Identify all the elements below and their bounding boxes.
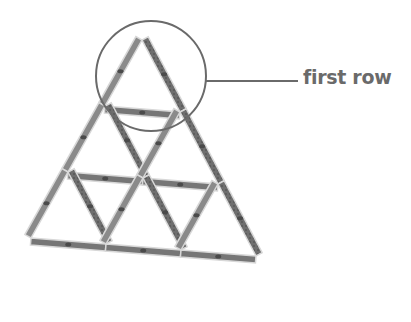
card-center-emblem: [140, 248, 146, 252]
card-center-emblem: [161, 72, 167, 76]
card-center-emblem: [155, 141, 161, 145]
card-center-emblem: [102, 176, 108, 180]
card-center-emblem: [124, 138, 130, 142]
card-center-emblem: [65, 242, 71, 246]
card-center-emblem: [162, 210, 168, 214]
card-center-emblem: [215, 254, 221, 258]
card-center-emblem: [177, 182, 183, 186]
card-center-emblem: [80, 135, 86, 139]
card-center-emblem: [139, 110, 145, 114]
card-center-emblem: [117, 69, 123, 73]
card-center-emblem: [118, 207, 124, 211]
card-center-emblem: [87, 204, 93, 208]
house-of-cards-diagram: [0, 0, 411, 322]
card-pyramid: [25, 37, 262, 263]
card-center-emblem: [199, 144, 205, 148]
card-center-emblem: [237, 216, 243, 220]
card-center-emblem: [43, 201, 49, 205]
card-center-emblem: [193, 213, 199, 217]
first-row-label: first row: [303, 66, 391, 88]
